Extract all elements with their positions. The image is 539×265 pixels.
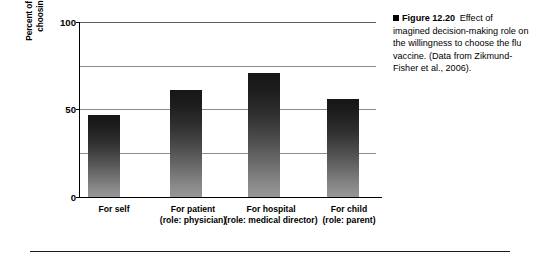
figure-number: Figure 12.20: [402, 13, 460, 23]
plot-area: 100 50 0: [80, 22, 376, 197]
x-label-main-3: For child: [331, 204, 367, 214]
bar-for-hospital: [248, 73, 280, 197]
y-tick-label-100: 100: [60, 17, 76, 28]
y-tick-label-0: 0: [71, 192, 76, 203]
gridline-100: [80, 22, 376, 23]
x-label-main-2: For hospital: [246, 204, 295, 214]
x-label-main-0: For self: [98, 204, 129, 214]
figure-page: Percent of particpants choosing flu shot…: [0, 0, 539, 265]
y-axis-line: [79, 22, 80, 198]
x-axis-labels: For self For patient (role: physician) F…: [60, 204, 385, 256]
y-tick-label-50: 50: [65, 104, 76, 115]
chart-figure: Percent of particpants choosing flu shot…: [0, 0, 385, 265]
x-label-main-1: For patient: [171, 204, 215, 214]
y-tick-mark-100: [76, 22, 80, 23]
gridline-75: [80, 66, 376, 67]
bottom-divider: [30, 251, 510, 252]
bar-for-child: [327, 99, 359, 197]
x-label-for-child: For child (role: parent): [300, 204, 398, 226]
square-bullet-icon: [393, 15, 399, 21]
bar-for-patient: [170, 90, 202, 197]
y-tick-mark-50: [76, 109, 80, 110]
y-axis-title: Percent of particpants choosing flu shot: [24, 0, 50, 68]
x-axis-line: [79, 197, 382, 198]
y-tick-mark-0: [76, 197, 80, 198]
figure-caption: Figure 12.20 Effect of imagined decision…: [393, 12, 529, 75]
x-label-sub-3: (role: parent): [300, 215, 398, 226]
bar-for-self: [88, 115, 120, 197]
